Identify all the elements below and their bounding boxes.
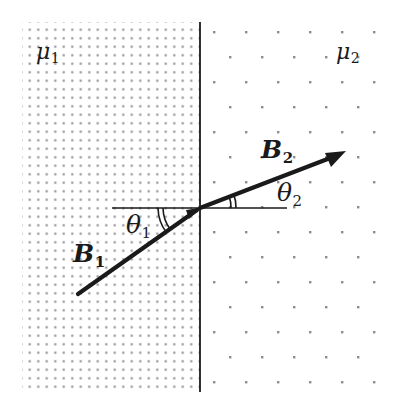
label-mu2-subscript: 2 — [351, 50, 360, 66]
label-mu1-subscript: 1 — [51, 50, 60, 66]
label-mu2-symbol: μ — [336, 39, 350, 64]
label-theta2-symbol: θ — [277, 178, 292, 207]
label-theta2: θ2 — [277, 180, 302, 209]
label-mu1: μ1 — [36, 41, 60, 65]
label-theta1-subscript: 1 — [142, 224, 152, 242]
label-b1-symbol: B — [73, 239, 94, 268]
label-b1: B1 — [73, 241, 105, 270]
label-b2-subscript: 2 — [283, 149, 293, 167]
label-theta2-subscript: 2 — [293, 192, 303, 210]
label-mu1-symbol: μ — [36, 39, 50, 64]
label-b2-symbol: B — [261, 135, 282, 164]
magnetic-field-refraction-figure: μ1 μ2 B2 θ2 θ1 B1 — [0, 0, 395, 407]
region-mu1-fill — [22, 22, 200, 392]
label-b1-subscript: 1 — [95, 253, 105, 271]
label-b2: B2 — [261, 137, 293, 166]
label-theta1-symbol: θ — [126, 210, 141, 239]
label-mu2: μ2 — [336, 41, 360, 65]
label-theta1: θ1 — [126, 212, 151, 241]
